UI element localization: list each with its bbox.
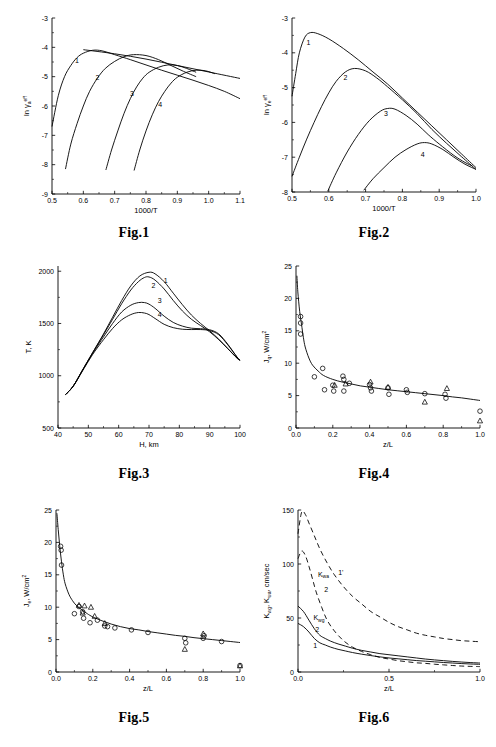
- fig3-curve-label: 2: [152, 282, 156, 289]
- fig4-x-ticklabel: 1.0: [475, 431, 485, 438]
- fig1-caption: Fig.1: [18, 225, 250, 241]
- fig2-labels: 1000/Tln γeeff1234: [262, 39, 425, 213]
- fig4-y-ticklabel: 15: [284, 327, 292, 334]
- fig5-y-ticklabel: 15: [44, 571, 52, 578]
- fig2-x-ticklabel: 0.9: [434, 195, 444, 202]
- fig6-y-ticklabel: 100: [282, 561, 294, 568]
- figure-sheet: 0.50.60.70.80.91.01.1-9-8-7-6-5-4-3 1000…: [0, 0, 496, 747]
- fig1-plot: 0.50.60.70.80.91.01.1-9-8-7-6-5-4-3 1000…: [18, 4, 250, 226]
- fig1-curve-label: 1: [75, 57, 79, 64]
- fig1-curve-envelope: [83, 50, 240, 79]
- fig2-x-ticklabel: 0.8: [398, 195, 408, 202]
- fig3-y-ticklabel: 500: [42, 425, 54, 432]
- fig3-y-ticklabel: 1000: [38, 372, 54, 379]
- fig4-marker-circle: [298, 321, 303, 326]
- fig4-marker-circle: [298, 332, 303, 337]
- fig1-y-axis-label: ln γaeff: [22, 95, 32, 116]
- fig1-curve-label: 4: [158, 101, 162, 108]
- fig5-marker-circle: [219, 639, 224, 644]
- fig4-markers: [298, 314, 482, 423]
- fig3-plot: 405060708090100500100015002000 H, kmT, K…: [18, 252, 250, 464]
- fig2-y-ticklabel: -5: [282, 84, 288, 91]
- fig4-marker-circle: [312, 375, 317, 380]
- fig2-y-ticklabel: -3: [282, 15, 288, 22]
- fig4-marker-triangle: [477, 418, 482, 423]
- fig6-labels: z/LKwg, Kwa, cm/secKwa1'2Kwg21: [262, 563, 394, 693]
- fig2-y-ticklabel: -6: [282, 119, 288, 126]
- fig1-y-ticklabel: -5: [42, 73, 48, 80]
- fig5-x-ticklabel: 0.6: [162, 675, 172, 682]
- fig1-y-ticklabel: -3: [42, 15, 48, 22]
- fig4-marker-circle: [322, 387, 327, 392]
- fig3-x-ticklabel: 100: [234, 431, 246, 438]
- fig3-x-ticklabel: 80: [175, 431, 183, 438]
- fig4-axes: 0.00.20.40.60.81.00510152025: [284, 263, 485, 438]
- fig4-marker-circle: [331, 389, 336, 394]
- fig4-marker-circle: [478, 409, 483, 414]
- fig5-fit-curve: [57, 513, 240, 642]
- fig4-x-ticklabel: 0.8: [438, 431, 448, 438]
- fig6-curve-2-dashed: [298, 551, 480, 667]
- fig5-marker-circle: [113, 626, 118, 631]
- fig5-marker-circle: [183, 641, 188, 646]
- fig1-axes: 0.50.60.70.80.91.01.1-9-8-7-6-5-4-3: [42, 15, 245, 204]
- fig4-y-ticklabel: 0: [288, 425, 292, 432]
- fig1-x-axis-label: 1000/T: [134, 206, 158, 215]
- fig3-x-axis-label: H, km: [139, 440, 159, 449]
- fig3-x-ticklabel: 60: [115, 431, 123, 438]
- fig2-y-ticklabel: -8: [282, 189, 288, 196]
- fig3-curve-2: [66, 277, 240, 395]
- fig3-x-ticklabel: 50: [84, 431, 92, 438]
- fig4-caption: Fig.4: [258, 466, 490, 482]
- fig1-x-ticklabel: 0.9: [172, 197, 182, 204]
- fig4-curves: [297, 276, 480, 401]
- fig2-axes: 0.50.60.70.80.91.0-8-7-6-5-4-3: [282, 15, 481, 202]
- fig3-curve-label: 1: [164, 277, 168, 284]
- fig2-y-ticklabel: -4: [282, 49, 288, 56]
- fig2-plot: 0.50.60.70.80.91.0-8-7-6-5-4-3 1000/Tln …: [258, 4, 490, 226]
- fig6-y-ticklabel: 50: [286, 615, 294, 622]
- fig5-y-ticklabel: 20: [44, 539, 52, 546]
- fig6-y-ticklabel: 150: [282, 507, 294, 514]
- fig2-curve-label: 1: [307, 39, 311, 46]
- fig5-marker-circle: [129, 628, 134, 633]
- fig2-curve-label: 4: [421, 151, 425, 158]
- fig6-inline-label: Kwa: [318, 571, 329, 580]
- fig5-marker-triangle: [82, 603, 87, 608]
- fig5-marker-triangle: [182, 647, 187, 652]
- fig2-caption: Fig.2: [258, 225, 490, 241]
- fig3-y-ticklabel: 1500: [38, 320, 54, 327]
- fig5-y-ticklabel: 5: [48, 636, 52, 643]
- fig2-curve-label: 2: [343, 74, 347, 81]
- figure-panel-fig3: 405060708090100500100015002000 H, kmT, K…: [18, 252, 250, 464]
- fig1-x-ticklabel: 0.6: [78, 197, 88, 204]
- figure-panel-fig6: 0.00.51.0050100150 z/LKwg, Kwa, cm/secKw…: [258, 496, 490, 708]
- fig4-x-ticklabel: 0.6: [402, 431, 412, 438]
- fig4-x-axis-label: z/L: [383, 440, 393, 449]
- fig4-y-ticklabel: 5: [288, 392, 292, 399]
- fig4-fit-curve: [297, 276, 480, 401]
- fig4-marker-triangle: [444, 386, 449, 391]
- fig1-x-ticklabel: 0.8: [141, 197, 151, 204]
- fig3-axes: 405060708090100500100015002000: [38, 266, 246, 438]
- fig2-curve-1: [292, 32, 476, 167]
- fig3-caption: Fig.3: [18, 466, 250, 482]
- fig5-plot: 0.00.20.40.60.81.00510152025 z/LJe, W/cm…: [18, 496, 250, 708]
- fig3-curve-1: [66, 272, 240, 394]
- fig1-y-ticklabel: -7: [42, 132, 48, 139]
- fig4-marker-circle: [369, 389, 374, 394]
- fig1-x-ticklabel: 1.0: [204, 197, 214, 204]
- fig6-axes: 0.00.51.0050100150: [282, 507, 485, 682]
- fig4-y-ticklabel: 10: [284, 360, 292, 367]
- fig2-x-ticklabel: 0.7: [361, 195, 371, 202]
- fig3-y-ticklabel: 2000: [38, 268, 54, 275]
- fig2-x-ticklabel: 0.6: [324, 195, 334, 202]
- figure-panel-fig5: 0.00.20.40.60.81.00510152025 z/LJe, W/cm…: [18, 496, 250, 708]
- fig4-y-ticklabel: 20: [284, 295, 292, 302]
- fig3-x-ticklabel: 40: [54, 431, 62, 438]
- fig6-inline-label: Kwg: [313, 614, 324, 623]
- fig4-marker-circle: [341, 374, 346, 379]
- fig2-curve-3: [328, 108, 473, 191]
- fig6-inline-label: 2: [324, 586, 328, 593]
- fig3-x-ticklabel: 90: [206, 431, 214, 438]
